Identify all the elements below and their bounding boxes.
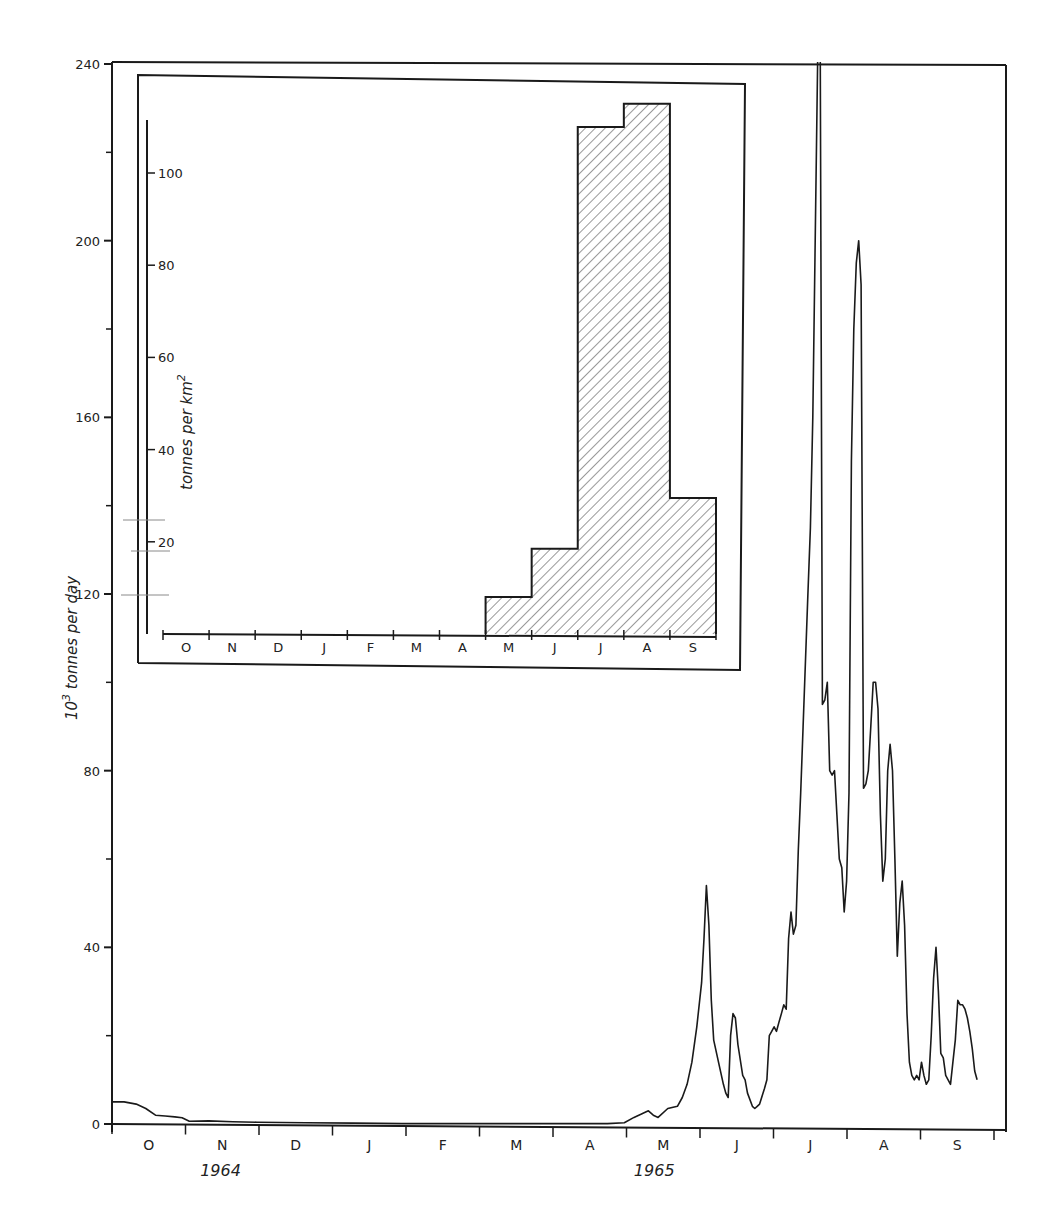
y-tick-label: 80: [83, 764, 100, 779]
month-label: A: [585, 1137, 595, 1153]
inset-bar: [532, 549, 578, 634]
sediment-chart: 04080120160200240 ONDJFMAMJJAS 103 tonne…: [0, 0, 1051, 1228]
inset-bar: [578, 127, 624, 634]
inset-bar: [670, 498, 716, 634]
inset-y-tick-label: 100: [158, 166, 183, 181]
month-label: D: [290, 1137, 301, 1153]
month-label: A: [879, 1137, 889, 1153]
inset-bar: [486, 597, 532, 634]
inset-month-label: N: [227, 640, 237, 655]
month-label: J: [734, 1137, 739, 1153]
inset-month-label: A: [642, 640, 651, 655]
month-label: O: [143, 1137, 154, 1153]
inset-chart: 20406080100 ONDJFMAMJJAS tonnes per km2: [138, 75, 745, 670]
inset-y-tick-label: 80: [158, 258, 175, 273]
month-label: N: [217, 1137, 227, 1153]
inset-month-label: M: [503, 640, 514, 655]
inset-month-label: J: [552, 640, 557, 655]
month-label: F: [439, 1137, 447, 1153]
y-tick-label: 200: [75, 234, 100, 249]
month-label: S: [953, 1137, 962, 1153]
month-label: M: [657, 1137, 669, 1153]
y-tick-label: 0: [92, 1117, 100, 1132]
month-label: J: [807, 1137, 812, 1153]
inset-month-label: F: [367, 640, 374, 655]
inset-month-label: M: [411, 640, 422, 655]
year-label-1964: 1964: [200, 1161, 241, 1180]
inset-y-axis-title: tonnes per km2: [175, 374, 196, 490]
inset-month-label: D: [273, 640, 283, 655]
inset-y-tick-label: 20: [158, 535, 175, 550]
inset-month-label: J: [598, 640, 603, 655]
inset-month-label: A: [458, 640, 467, 655]
inset-y-tick-label: 40: [158, 443, 175, 458]
month-label: J: [366, 1137, 371, 1153]
inset-y-tick-label: 60: [158, 350, 175, 365]
inset-month-label: J: [321, 640, 326, 655]
inset-month-label: O: [181, 640, 191, 655]
main-y-axis-title: 103 tonnes per day: [60, 575, 81, 720]
inset-bar: [624, 104, 670, 634]
inset-month-label: S: [689, 640, 697, 655]
y-tick-label: 40: [83, 940, 100, 955]
y-tick-label: 160: [75, 410, 100, 425]
y-tick-label: 240: [75, 57, 100, 72]
year-label-1965: 1965: [634, 1161, 675, 1180]
month-label: M: [510, 1137, 522, 1153]
